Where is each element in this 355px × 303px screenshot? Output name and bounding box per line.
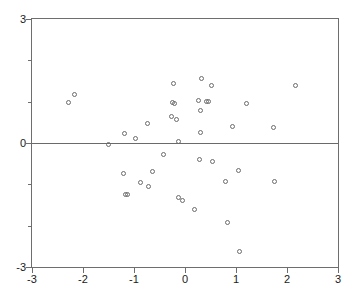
x-axis-tick-label: 3: [335, 274, 341, 285]
x-axis-tick-label: 0: [182, 274, 188, 285]
x-axis-tick-label: -2: [78, 274, 88, 285]
x-axis-tick-label: -3: [27, 274, 37, 285]
y-axis-tick-label: -3: [16, 262, 26, 273]
x-axis-tick-label: -1: [129, 274, 139, 285]
data-point-marker: [237, 249, 242, 254]
data-point-marker: [180, 198, 185, 203]
data-point-marker: [125, 192, 130, 197]
data-point-marker: [272, 179, 277, 184]
data-point-marker: [197, 157, 202, 162]
data-point-marker: [72, 92, 77, 97]
data-point-marker: [199, 76, 204, 81]
data-point-marker: [225, 220, 230, 225]
data-point-marker: [121, 171, 126, 176]
data-point-marker: [192, 207, 197, 212]
y-axis-minor-tick: [28, 102, 32, 103]
data-point-marker: [230, 124, 235, 129]
data-point-marker: [198, 108, 203, 113]
zero-reference-line: [32, 143, 338, 144]
data-point-marker: [209, 83, 214, 88]
data-point-marker: [171, 81, 176, 86]
data-point-marker: [223, 179, 228, 184]
x-axis-tick-label: 1: [233, 274, 239, 285]
data-point-marker: [169, 114, 174, 119]
data-point-marker: [133, 136, 138, 141]
data-point-marker: [196, 98, 201, 103]
data-point-marker: [66, 100, 71, 105]
data-point-marker: [210, 159, 215, 164]
data-point-marker: [198, 130, 203, 135]
data-point-marker: [271, 125, 276, 130]
data-point-marker: [150, 169, 155, 174]
x-axis-tick-label: 2: [284, 274, 290, 285]
scatter-plot-figure: -303-3-2-10123: [0, 0, 355, 303]
y-axis-minor-tick: [28, 226, 32, 227]
data-point-marker: [161, 152, 166, 157]
data-point-marker: [206, 99, 211, 104]
y-axis-tick-label: 0: [20, 138, 26, 149]
data-point-marker: [236, 168, 241, 173]
data-point-marker: [145, 121, 150, 126]
data-point-marker: [106, 142, 111, 147]
data-point-marker: [138, 180, 143, 185]
y-axis-minor-tick: [28, 60, 32, 61]
data-point-marker: [172, 101, 177, 106]
data-point-marker: [146, 184, 151, 189]
y-axis-tick: [26, 19, 32, 20]
data-point-marker: [293, 83, 298, 88]
y-axis-tick-label: 3: [20, 14, 26, 25]
data-point-marker: [122, 131, 127, 136]
data-point-marker: [174, 117, 179, 122]
y-axis-minor-tick: [28, 184, 32, 185]
plot-area: -303-3-2-10123: [31, 18, 339, 268]
data-point-marker: [244, 101, 249, 106]
y-axis-tick: [26, 143, 32, 144]
